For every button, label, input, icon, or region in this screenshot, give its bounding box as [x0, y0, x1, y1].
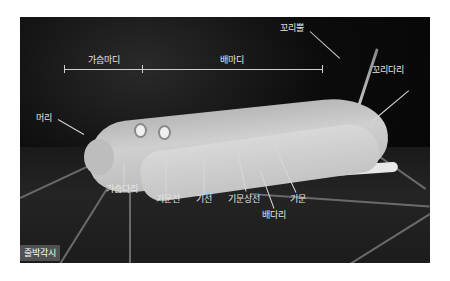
caterpillar-head — [84, 139, 114, 175]
label-thoracic-legs: 가슴다리 — [106, 184, 138, 194]
label-subspiracular-line: 기문선 — [156, 194, 180, 204]
label-head: 머리 — [36, 113, 52, 123]
bracket-tick — [142, 65, 143, 73]
leader-line — [124, 164, 125, 184]
species-name-badge: 줄박각시 — [20, 245, 60, 261]
label-anal-prolegs: 꼬리다리 — [372, 65, 404, 75]
label-supraspiracular-line: 기문상선 — [228, 194, 260, 204]
label-abdomen-segments: 배마디 — [220, 55, 244, 65]
leader-line — [58, 119, 84, 135]
segment-bracket — [64, 69, 322, 70]
label-thorax-segments: 가슴마디 — [88, 55, 120, 65]
bracket-tick — [64, 65, 65, 73]
leader-line — [204, 159, 205, 193]
eye-spot — [134, 123, 147, 138]
label-tail-horn: 꼬리뿔 — [280, 23, 304, 33]
label-base-line: 기선 — [196, 194, 212, 204]
caterpillar-photo: 가슴마디 배마디 꼬리뿔 꼬리다리 머리 가슴다리 기문선 기선 기문상선 배다… — [20, 17, 430, 263]
leader-line — [166, 159, 167, 193]
bracket-tick — [322, 65, 323, 73]
eye-spot — [158, 125, 171, 140]
label-prolegs: 배다리 — [262, 210, 286, 220]
leader-line — [372, 90, 409, 122]
leader-line — [310, 31, 340, 59]
label-spiracle: 기문 — [290, 194, 306, 204]
